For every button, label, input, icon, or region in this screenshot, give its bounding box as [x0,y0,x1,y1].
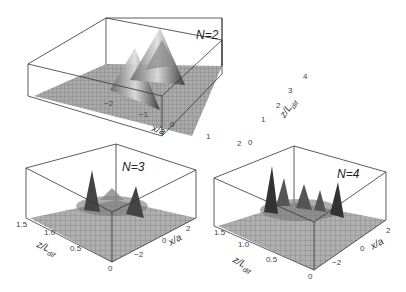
surface-plot-n3 [0,140,200,292]
panel-n4: N=4 1.5 1.0 0.5 0 z/Ldif −2 0 2 x/a [210,140,406,292]
panel-n3: N=3 1.5 1.0 0.5 0 z/Ldif −2 0 2 x/a [0,140,200,292]
x-tick: −2 [104,99,113,108]
surface-plot-n2 [0,0,406,150]
x-tick: 0 [170,120,174,129]
x-tick: 2 [186,224,190,233]
panel-n2: N=2 −2 −1 0 1 2 x/a 0 1 2 3 4 z/Ldif [0,0,406,150]
z-tick: 1.5 [16,220,27,229]
n-label: N=3 [122,160,144,174]
x-tick: −2 [134,250,143,259]
z-tick: 4 [303,72,307,81]
z-tick: 1.0 [44,228,55,237]
x-tick: 0 [360,244,364,253]
x-tick: −1 [139,110,148,119]
n-label: N=4 [337,167,359,181]
x-tick: 2 [386,226,390,235]
z-tick: 1.0 [238,240,249,249]
n-label: N=2 [196,28,218,42]
z-tick: 0.5 [70,244,81,253]
z-tick: 3 [288,86,292,95]
z-tick: 1.5 [214,228,225,237]
z-tick: 0 [308,272,312,281]
z-tick: 0.5 [266,255,277,264]
x-tick: −2 [332,258,341,267]
z-tick: 0 [108,264,112,273]
z-tick: 1 [261,115,265,124]
